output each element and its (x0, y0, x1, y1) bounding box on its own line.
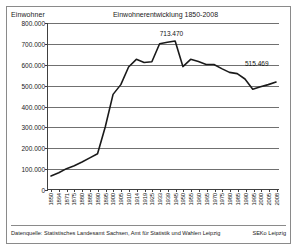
x-tick-label: 1871 (64, 193, 70, 206)
x-tick-mark (113, 189, 114, 192)
population-line-series (48, 23, 279, 189)
x-tick-mark (222, 189, 223, 192)
x-tick-mark (277, 189, 278, 192)
x-tick-mark (121, 189, 122, 192)
x-tick-mark (129, 189, 130, 192)
x-tick-mark (261, 189, 262, 192)
x-tick-mark (106, 189, 107, 192)
y-tick-label: 0 (41, 187, 45, 194)
x-tick-mark (207, 189, 208, 192)
x-tick-mark (168, 189, 169, 192)
x-tick-label: 1950 (180, 193, 186, 206)
x-tick-mark (183, 189, 184, 192)
x-tick-label: 1975 (219, 193, 225, 206)
x-tick-label: 1960 (196, 193, 202, 206)
x-tick-mark (215, 189, 216, 192)
x-tick-mark (59, 189, 60, 192)
x-tick-mark (246, 189, 247, 192)
y-tick-label: 400.000 (22, 103, 46, 110)
x-tick-label: 1910 (126, 193, 132, 206)
x-tick-mark (191, 189, 192, 192)
x-tick-label: 1875 (71, 193, 77, 206)
x-tick-label: 1900 (110, 193, 116, 206)
x-tick-label: 1905 (118, 193, 124, 206)
x-tick-mark (67, 189, 68, 192)
data-point-label: 515.469 (245, 60, 269, 67)
x-tick-mark (230, 189, 231, 192)
x-tick-mark (238, 189, 239, 192)
x-tick-label: 1965 (204, 193, 210, 206)
x-tick-label: 1945 (173, 193, 179, 206)
y-tick-label: 100.000 (22, 166, 46, 173)
x-tick-label: 2005 (266, 193, 272, 206)
x-tick-label: 1895 (103, 193, 109, 206)
x-tick-mark (160, 189, 161, 192)
y-tick-label: 500.000 (22, 82, 46, 89)
x-tick-mark (98, 189, 99, 192)
x-tick-mark (199, 189, 200, 192)
x-tick-label: 1914 (134, 193, 140, 206)
x-tick-mark (269, 189, 270, 192)
chart-footer: Datenquelle: Statistisches Landesamt Sac… (11, 225, 286, 238)
chart-frame: Einwohner Einwohnerentwicklung 1850-2008… (6, 6, 291, 244)
x-tick-label: 1890 (95, 193, 101, 206)
x-tick-label: 1955 (188, 193, 194, 206)
x-tick-label: 1933 (157, 193, 163, 206)
x-tick-label: 1925 (149, 193, 155, 206)
x-tick-mark (82, 189, 83, 192)
x-tick-mark (152, 189, 153, 192)
data-source-text: Datenquelle: Statistisches Landesamt Sac… (11, 230, 220, 236)
x-tick-label: 1885 (87, 193, 93, 206)
y-tick-mark (45, 190, 48, 191)
x-tick-mark (137, 189, 138, 192)
x-tick-label: 1864 (56, 193, 62, 206)
x-tick-mark (90, 189, 91, 192)
x-tick-label: 1939 (165, 193, 171, 206)
x-tick-label: 1970 (212, 193, 218, 206)
y-tick-label: 600.000 (22, 61, 46, 68)
x-tick-mark (51, 189, 52, 192)
x-tick-mark (145, 189, 146, 192)
x-tick-label: 2000 (258, 193, 264, 206)
x-tick-mark (74, 189, 75, 192)
x-tick-label: 1985 (235, 193, 241, 206)
x-tick-label: 1980 (227, 193, 233, 206)
y-tick-label: 700.000 (22, 40, 46, 47)
y-tick-label: 300.000 (22, 124, 46, 131)
x-tick-label: 1919 (142, 193, 148, 206)
x-tick-label: 1850 (48, 193, 54, 206)
credit-text: SEKo Leipzig (252, 230, 286, 236)
plot-area: 0100.000200.000300.000400.000500.000600.… (47, 23, 279, 190)
data-point-label: 713.470 (160, 30, 184, 37)
x-tick-label: 1990 (243, 193, 249, 206)
x-tick-label: 1880 (79, 193, 85, 206)
x-tick-label: 1995 (251, 193, 257, 206)
x-tick-label: 2008 (274, 193, 280, 206)
y-tick-label: 200.000 (22, 145, 46, 152)
chart-title: Einwohnerentwicklung 1850-2008 (7, 11, 290, 18)
x-tick-mark (254, 189, 255, 192)
x-tick-mark (176, 189, 177, 192)
y-tick-label: 800.000 (22, 20, 46, 27)
